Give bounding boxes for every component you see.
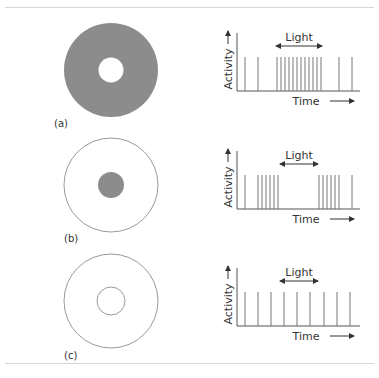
x-axis-label: Time: [292, 95, 320, 108]
y-axis-label: Activity: [222, 48, 235, 90]
x-axis-label: Time: [292, 213, 320, 226]
receptive-field-a: [64, 23, 158, 117]
receptive-field-b: [64, 138, 158, 232]
panel-label-a: (a): [54, 118, 68, 129]
receptive-field-figure: (a) (b) (c) LightActivityTimeLightActivi…: [0, 0, 379, 378]
panel-label-c: (c): [64, 350, 77, 361]
light-label: Light: [285, 149, 313, 162]
light-label: Light: [285, 31, 313, 44]
spike-chart-b: LightActivityTime: [222, 149, 360, 226]
x-axis-label: Time: [292, 330, 320, 343]
spike-chart-a: LightActivityTime: [222, 31, 360, 108]
spike-chart-c: LightActivityTime: [222, 266, 360, 343]
panel-label-b: (b): [64, 233, 78, 244]
y-axis-label: Activity: [222, 283, 235, 325]
y-axis-label: Activity: [222, 166, 235, 208]
receptive-field-c: [64, 254, 158, 348]
light-label: Light: [285, 266, 313, 279]
